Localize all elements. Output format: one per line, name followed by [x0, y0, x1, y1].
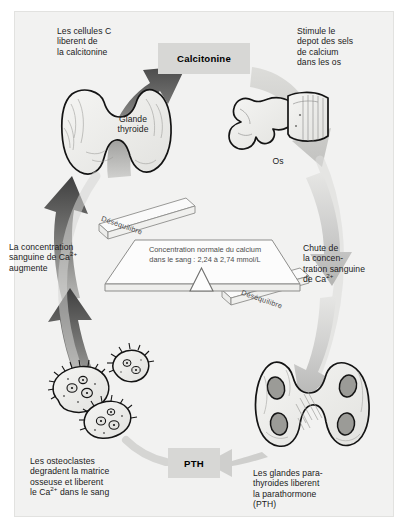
figure-canvas: Les cellules C liberent de la calcitonin…: [0, 0, 402, 525]
hormone-tag-calcitonine: Calcitonine: [158, 43, 250, 74]
label-c-cells: Les cellules C liberent de la calcitonin…: [57, 26, 167, 57]
label-calcium-falls-main: Chute de la concen- tration sanguine de …: [303, 243, 365, 284]
label-osteoclasts: Les osteoclastes degradent la matrice os…: [30, 456, 162, 498]
balance-beam-line2: dans le sang : 2,24 à 2,74 mmol/L: [119, 255, 291, 265]
balance-beam-text: Concentration normale du calcium dans le…: [119, 245, 291, 264]
label-calcium-rises: La concentration sanguine de Ca2+ augmen…: [9, 242, 109, 273]
balance-beam-line1: Concentration normale du calcium: [119, 245, 291, 255]
label-bone-deposit: Stimule le depot des sels de calcium dan…: [297, 26, 397, 68]
ion-charge-superscript: 2+: [326, 272, 333, 279]
label-calcium-rises-main: La concentration sanguine de Ca: [9, 242, 73, 262]
label-calcium-rises-tail: augmente: [9, 263, 48, 273]
hormone-tag-pth: PTH: [168, 448, 220, 478]
label-parathyroid-glands: Les glandes para- thyroides liberent la …: [253, 468, 373, 510]
osteoclast-cells-icon: [48, 343, 154, 438]
vertebra-bone-icon: [229, 92, 328, 149]
ion-charge-superscript: 2+: [70, 251, 77, 258]
label-bone: Os: [263, 156, 293, 166]
label-calcium-falls: Chute de la concen- tration sanguine de …: [303, 243, 399, 285]
label-thyroid-gland: Glande thyroide: [101, 114, 165, 135]
label-osteoclasts-tail: dans le sang: [57, 487, 109, 497]
